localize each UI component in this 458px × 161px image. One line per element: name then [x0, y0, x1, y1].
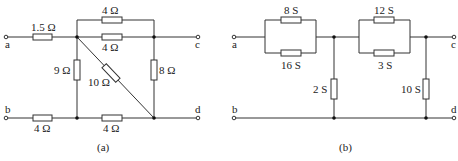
conductance-16-s [281, 50, 301, 56]
terminal-label-a: a [5, 38, 10, 50]
terminal-label-d: d [195, 103, 201, 115]
junction-node [424, 35, 428, 39]
resistor-8-ohm [151, 60, 157, 80]
label-1-5-ohm: 1.5 Ω [31, 21, 56, 33]
label-3-s: 3 S [378, 59, 392, 71]
label-4-ohm-top-inner: 4 Ω [102, 41, 118, 53]
conductance-8-s [281, 17, 301, 23]
terminal-label-d: d [451, 103, 457, 115]
terminal-label-b: b [5, 103, 11, 115]
terminal-b [4, 116, 8, 120]
label-4-ohm-bottom-left: 4 Ω [34, 122, 50, 134]
junction-node [152, 35, 156, 39]
conductance-12-s [374, 17, 394, 23]
terminal-d [452, 116, 456, 120]
wire [77, 20, 102, 37]
circuit-b: a c b d 8 S 16 S 12 S 3 S 2 S 10 S (b) [232, 4, 457, 154]
terminal-b [232, 116, 236, 120]
conductance-3-s [374, 50, 394, 56]
circuit-a: a c b d 1.5 Ω 4 Ω 4 Ω 9 Ω 10 Ω 8 Ω 4 Ω 4… [4, 4, 201, 154]
label-9-ohm: 9 Ω [54, 64, 70, 76]
label-8-ohm: 8 Ω [159, 64, 175, 76]
junction-node [424, 116, 428, 120]
junction-node [75, 35, 79, 39]
junction-node [75, 116, 79, 120]
label-4-ohm-top-outer: 4 Ω [102, 4, 118, 16]
terminal-label-c: c [195, 38, 200, 50]
label-10-ohm: 10 Ω [88, 76, 110, 88]
label-2-s: 2 S [313, 83, 327, 95]
conductance-10-s [423, 79, 429, 99]
circuit-diagrams: a c b d 1.5 Ω 4 Ω 4 Ω 9 Ω 10 Ω 8 Ω 4 Ω 4… [0, 0, 458, 161]
junction-node [332, 35, 336, 39]
wire [122, 20, 154, 37]
caption-a: (a) [97, 141, 110, 154]
label-8-s: 8 S [284, 4, 298, 16]
terminal-label-c: c [451, 38, 456, 50]
resistor-4-ohm-bottom-left [33, 115, 52, 121]
label-10-s: 10 S [401, 83, 421, 95]
resistor-4-ohm-top-inner [102, 34, 122, 40]
caption-b: (b) [339, 141, 352, 154]
terminal-label-a: a [232, 38, 237, 50]
junction-node [152, 116, 156, 120]
label-12-s: 12 S [374, 4, 394, 16]
label-16-s: 16 S [281, 59, 301, 71]
conductance-2-s [331, 79, 337, 99]
junction-node [332, 116, 336, 120]
resistor-1-5-ohm [33, 34, 52, 40]
resistor-4-ohm-bottom-right [102, 115, 122, 121]
resistor-4-ohm-top-outer [102, 17, 122, 23]
terminal-d [196, 116, 200, 120]
resistor-9-ohm [74, 60, 80, 80]
terminal-label-b: b [232, 103, 238, 115]
label-4-ohm-bottom-right: 4 Ω [103, 122, 119, 134]
